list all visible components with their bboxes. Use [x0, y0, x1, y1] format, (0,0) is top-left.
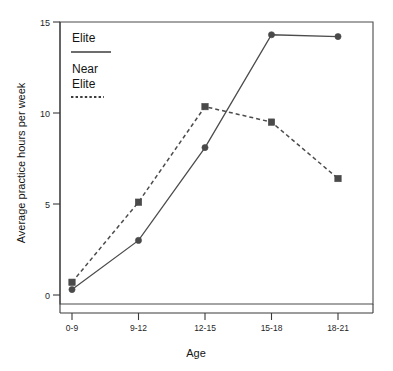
data-point	[335, 33, 341, 39]
y-axis-ticks: 15 10 5 0	[40, 18, 60, 301]
data-point	[268, 32, 274, 38]
y-axis-title: Average practice hours per week	[15, 82, 27, 243]
data-point	[335, 175, 341, 181]
y-tick-label-5: 5	[45, 200, 50, 210]
data-point	[69, 286, 75, 292]
chart-container: 15 10 5 0 0-9 9-12 12-15 15-18 18-21 Age…	[0, 0, 393, 371]
near-elite-line	[72, 107, 338, 283]
legend-label-near-elite: Elite	[72, 77, 96, 91]
data-point	[202, 103, 208, 109]
elite-line	[72, 35, 338, 290]
legend-label-near: Near	[72, 62, 98, 76]
x-tick-label-12-15: 12-15	[194, 323, 216, 333]
near-elite-markers	[69, 103, 341, 285]
x-tick-label-18-21: 18-21	[327, 323, 349, 333]
practice-hours-line-chart: 15 10 5 0 0-9 9-12 12-15 15-18 18-21 Age…	[0, 0, 393, 371]
x-axis: 0-9 9-12 12-15 15-18 18-21	[60, 304, 373, 333]
plot-frame	[60, 22, 373, 304]
data-point	[135, 199, 141, 205]
y-tick-label-15: 15	[40, 18, 50, 28]
data-point	[69, 279, 75, 285]
x-tick-label-0-9: 0-9	[66, 323, 79, 333]
data-point	[202, 144, 208, 150]
elite-markers	[69, 32, 341, 293]
y-tick-label-10: 10	[40, 109, 50, 119]
series-elite	[69, 32, 341, 293]
y-tick-label-0: 0	[45, 291, 50, 301]
data-point	[135, 237, 141, 243]
chart-legend: Elite Near Elite	[71, 31, 111, 97]
legend-label-elite: Elite	[72, 31, 96, 45]
series-near-elite	[69, 103, 341, 285]
x-tick-label-9-12: 9-12	[130, 323, 147, 333]
x-axis-title: Age	[186, 347, 206, 359]
data-point	[268, 119, 274, 125]
x-tick-label-15-18: 15-18	[261, 323, 283, 333]
